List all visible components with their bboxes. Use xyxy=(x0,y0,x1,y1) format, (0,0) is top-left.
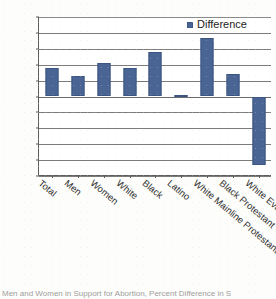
bar[interactable] xyxy=(45,68,58,97)
y-axis-tick-mark xyxy=(36,176,39,177)
chart-legend: Difference xyxy=(186,18,249,31)
bar-slot xyxy=(65,17,91,175)
bar-slot xyxy=(220,17,246,175)
bar-slot xyxy=(39,17,65,175)
bar-slot xyxy=(143,17,169,175)
bar[interactable] xyxy=(71,76,84,97)
figure: 50403020100−10−20−30−40−50 TotalMenWomen… xyxy=(0,0,276,299)
bar-slot xyxy=(194,17,220,175)
bar-slot xyxy=(117,17,143,175)
x-axis-label: Total xyxy=(37,178,58,198)
bar[interactable] xyxy=(149,52,162,97)
bar[interactable] xyxy=(253,97,266,165)
bar[interactable] xyxy=(201,38,214,97)
x-axis-label: Women xyxy=(89,178,120,206)
bar-slot xyxy=(91,17,117,175)
bar[interactable] xyxy=(227,74,240,96)
x-axis-labels: TotalMenWomenWhiteBlackLatinoWhite Mainl… xyxy=(38,178,271,286)
legend-label: Difference xyxy=(197,19,247,30)
x-axis-label: Latino xyxy=(166,178,192,202)
x-axis-label: Men xyxy=(63,178,83,197)
bar-slot xyxy=(246,17,272,175)
bar-slot xyxy=(168,17,194,175)
plot-area: 50403020100−10−20−30−40−50 xyxy=(38,17,271,176)
bar-series xyxy=(39,17,271,175)
bar[interactable] xyxy=(97,63,110,96)
figure-caption: Men and Women in Support for Abortion, P… xyxy=(2,289,274,298)
x-axis-label: Black xyxy=(140,178,164,200)
bar[interactable] xyxy=(175,95,188,97)
bar[interactable] xyxy=(123,68,136,97)
legend-swatch-icon xyxy=(187,22,193,28)
